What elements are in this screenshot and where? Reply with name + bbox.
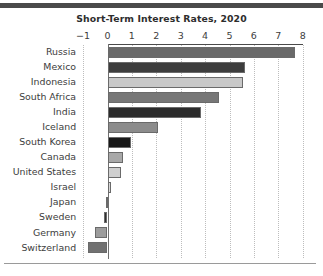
x-tick-label: 4 [192,30,218,41]
x-tick-label: 3 [168,30,194,41]
bar [88,242,107,253]
bar [108,77,243,88]
category-label: Japan [50,196,76,207]
x-tick-label: 0 [95,30,121,41]
x-tick-label: 6 [241,30,267,41]
x-tick-label: 7 [265,30,291,41]
bar [108,62,246,73]
chart-figure: Short-Term Interest Rates, 2020 −1012345… [0,0,323,276]
category-label: Iceland [42,121,76,132]
bar [108,137,131,148]
bar [108,92,219,103]
category-label: Russia [46,46,76,57]
plot-area: −1012345678RussiaMexicoIndonesiaSouth Af… [0,0,323,276]
bar [108,107,202,118]
bar [108,182,112,193]
x-tick-label: 1 [119,30,145,41]
gridline [278,45,279,258]
category-label: Germany [33,227,76,238]
category-label: Canada [40,151,76,162]
category-label: Mexico [43,61,76,72]
bar [95,227,107,238]
category-label: South Africa [19,91,76,102]
bar [106,197,108,208]
category-label: Israel [50,181,76,192]
category-label: India [53,106,76,117]
gridline [83,45,84,258]
category-label: Switzerland [21,242,76,253]
gridline [254,45,255,258]
bar [108,152,124,163]
category-label: United States [13,166,76,177]
x-tick-label: 5 [217,30,243,41]
category-label: Indonesia [31,76,76,87]
category-label: South Korea [19,136,76,147]
page-bottom-rule [4,263,316,264]
bar [108,47,296,58]
bar [108,122,158,133]
x-tick-label: −1 [70,30,96,41]
bar [104,212,108,223]
gridline [303,45,304,258]
category-label: Sweden [39,211,76,222]
x-tick-label: 8 [290,30,316,41]
bar [108,167,121,178]
x-tick-label: 2 [143,30,169,41]
